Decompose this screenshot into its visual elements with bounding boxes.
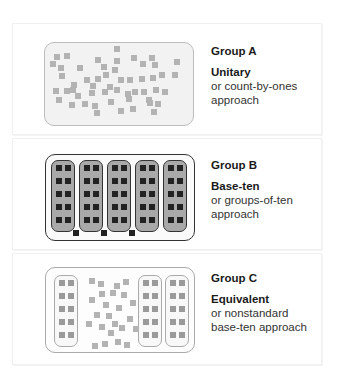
ten-unit-square — [177, 217, 183, 223]
group-c-description-line2: base-ten approach — [211, 320, 321, 334]
ten-unit-square — [179, 306, 185, 312]
unit-square — [101, 64, 107, 70]
ten-unit-square — [112, 178, 118, 184]
unit-square — [130, 300, 136, 306]
unit-square — [127, 77, 133, 83]
ten-unit-square — [143, 280, 149, 286]
ten-unit-square — [68, 293, 74, 299]
unit-square — [59, 73, 65, 79]
group-b-diagram — [45, 154, 195, 241]
unit-square — [116, 305, 122, 311]
ten-unit-square — [112, 165, 118, 171]
unit-square — [174, 59, 180, 65]
ten-unit-square — [59, 293, 65, 299]
unit-square — [89, 297, 95, 303]
unit-square — [53, 88, 59, 94]
ten-unit-square — [149, 217, 155, 223]
ten-unit-square — [112, 204, 118, 210]
ten-unit-square — [177, 178, 183, 184]
group-c-description-line1: or nonstandard — [211, 306, 321, 320]
ten-unit-square — [121, 204, 127, 210]
ten-unit-square — [177, 191, 183, 197]
unit-square — [114, 46, 120, 52]
ten-unit-square — [168, 191, 174, 197]
group-b-title: Group B — [211, 158, 321, 172]
ten-unit-square — [168, 217, 174, 223]
ten-unit-square — [179, 280, 185, 286]
unit-square — [130, 106, 136, 112]
group-b-description-line1: or groups-of-ten — [211, 193, 321, 207]
loose-unit-square — [101, 230, 107, 236]
ten-unit-square — [140, 178, 146, 184]
ten-unit-square — [143, 332, 149, 338]
ten-unit-square — [68, 319, 74, 325]
ten-unit-square — [121, 165, 127, 171]
ten-group — [165, 275, 189, 347]
ten-unit-square — [149, 178, 155, 184]
ten-unit-square — [179, 293, 185, 299]
unit-square — [54, 54, 60, 60]
unit-square — [102, 341, 108, 347]
ten-unit-square — [56, 217, 62, 223]
unit-square — [110, 290, 116, 296]
group-c-text: Group C Equivalent or nonstandard base-t… — [211, 271, 321, 334]
ten-unit-square — [93, 191, 99, 197]
ten-unit-square — [149, 165, 155, 171]
group-b-description-line2: approach — [211, 207, 321, 221]
ten-unit-square — [143, 293, 149, 299]
ten-unit-square — [170, 332, 176, 338]
unit-square — [114, 58, 120, 64]
group-c-approach: Equivalent — [211, 292, 321, 306]
unit-square — [86, 321, 92, 327]
unit-square — [118, 77, 124, 83]
unit-square — [108, 330, 114, 336]
group-a-text: Group A Unitary or count-by-ones approac… — [211, 44, 321, 107]
ten-unit-square — [65, 217, 71, 223]
unit-square — [64, 53, 70, 59]
ten-unit-square — [179, 319, 185, 325]
ten-unit-square — [93, 165, 99, 171]
ten-unit-square — [143, 319, 149, 325]
ten-unit-square — [170, 293, 176, 299]
ten-unit-square — [84, 191, 90, 197]
group-a-diagram — [44, 42, 194, 126]
unit-square — [95, 57, 101, 63]
group-a-approach: Unitary — [211, 65, 321, 79]
unit-square — [127, 316, 133, 322]
group-a-description-line2: approach — [211, 93, 321, 107]
unit-square — [147, 100, 153, 106]
unit-square — [112, 321, 118, 327]
ten-unit-square — [65, 191, 71, 197]
ten-group — [51, 160, 75, 232]
ten-unit-square — [59, 319, 65, 325]
unit-square — [58, 65, 64, 71]
ten-unit-square — [121, 178, 127, 184]
unit-square — [108, 99, 114, 105]
ten-unit-square — [140, 191, 146, 197]
unit-square — [112, 67, 118, 73]
unit-square — [114, 87, 120, 93]
ten-unit-square — [177, 204, 183, 210]
group-c-diagram — [45, 267, 195, 353]
ten-unit-square — [168, 178, 174, 184]
unit-square — [155, 101, 161, 107]
unit-square — [82, 101, 88, 107]
unit-square — [114, 283, 120, 289]
unit-square — [172, 72, 178, 78]
ten-unit-square — [84, 178, 90, 184]
unit-square — [92, 343, 98, 349]
unit-square — [153, 87, 159, 93]
ten-unit-square — [65, 178, 71, 184]
ten-unit-square — [149, 191, 155, 197]
unit-square — [121, 292, 127, 298]
ten-unit-square — [112, 217, 118, 223]
ten-unit-square — [65, 165, 71, 171]
unit-square — [98, 281, 104, 287]
ten-group — [107, 160, 131, 232]
unit-square — [56, 97, 62, 103]
loose-unit-square — [129, 230, 135, 236]
unit-square — [159, 72, 165, 78]
group-a-description-line1: or count-by-ones — [211, 79, 321, 93]
group-b-approach: Base-ten — [211, 179, 321, 193]
ten-group — [163, 160, 187, 232]
